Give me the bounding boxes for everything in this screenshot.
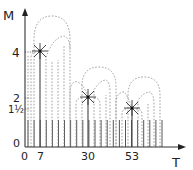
x-tick-label-0: 0 xyxy=(21,150,28,163)
x-tick-label-7: 7 xyxy=(37,150,44,163)
diagram: M T 4 2 1½ 0 0 7 30 53 xyxy=(0,0,193,170)
y-tick-label-1-5: 1½ xyxy=(8,104,24,115)
x-axis-label: T xyxy=(171,155,180,170)
y-axis-arrow-icon xyxy=(22,8,28,16)
star-marker-peak-2 xyxy=(80,89,96,105)
y-tick-label-0: 0 xyxy=(13,137,20,150)
x-axis-arrow-icon xyxy=(178,144,186,150)
star-marker-peak-1 xyxy=(32,43,48,59)
x-tick-label-30: 30 xyxy=(81,150,95,163)
dashed-arcs xyxy=(28,16,160,147)
y-tick-label-4: 4 xyxy=(12,46,20,60)
baseline-bars xyxy=(28,120,162,147)
star-marker-peak-3 xyxy=(124,100,140,116)
x-tick-label-53: 53 xyxy=(125,150,139,163)
y-axis-label: M xyxy=(3,8,14,23)
